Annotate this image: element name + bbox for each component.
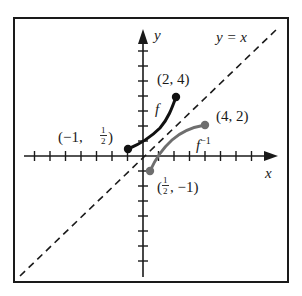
svg-text:(: (: [157, 179, 162, 196]
svg-text:2: 2: [101, 136, 106, 146]
endpoint-f-end: [172, 93, 180, 101]
x-axis-arrow-icon: [264, 151, 278, 161]
x-axis: [24, 151, 278, 161]
point-label-neg1-half: (−1, 1 2 ): [58, 125, 113, 146]
point-label-half-neg1: ( 1 2 , −1): [157, 175, 198, 196]
curve-f-label: f: [155, 101, 161, 117]
curve-finv-label: f−1: [196, 135, 211, 153]
endpoint-finv-start: [146, 167, 154, 175]
svg-text:, −1): , −1): [170, 179, 198, 196]
identity-line: [20, 28, 278, 276]
point-label-2-4: (2, 4): [157, 71, 190, 88]
identity-line-label: y = x: [214, 29, 247, 45]
inverse-function-diagram: y x y = x (2, 4) (4, 2) f f−1 (−1, 1 2 )…: [0, 0, 302, 296]
svg-text:1: 1: [163, 175, 168, 185]
svg-text:1: 1: [101, 125, 106, 135]
endpoint-f-start: [124, 145, 132, 153]
svg-text:): ): [108, 129, 113, 146]
point-label-4-2: (4, 2): [216, 108, 249, 125]
y-axis-arrow-icon: [138, 29, 148, 44]
endpoint-finv-end: [201, 121, 209, 129]
svg-text:(−1,: (−1,: [58, 129, 83, 146]
svg-text:2: 2: [163, 186, 168, 196]
y-axis-label: y: [152, 27, 161, 43]
y-axis: [138, 29, 148, 277]
x-axis-label: x: [264, 165, 272, 181]
